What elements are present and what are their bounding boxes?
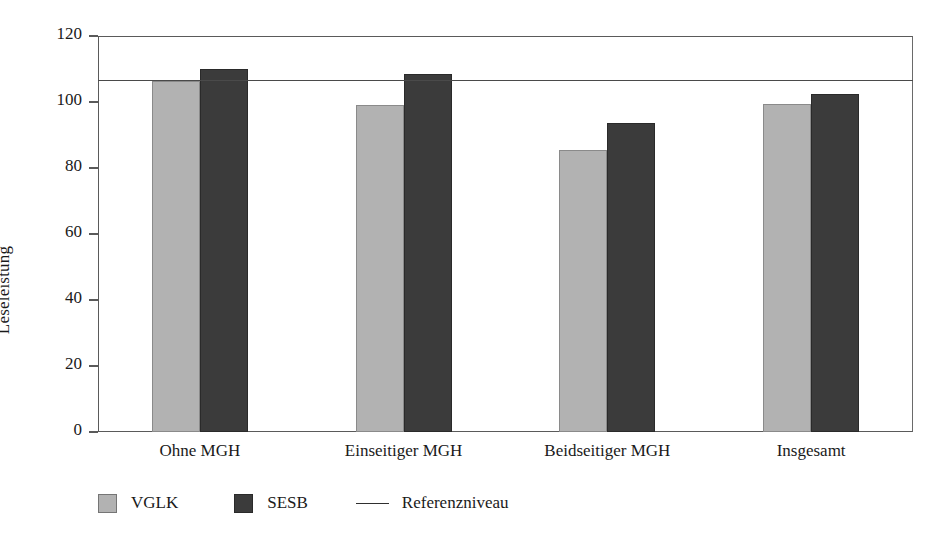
x-axis-label: Ohne MGH (98, 441, 302, 461)
y-axis-tick-label: 100 (57, 90, 83, 110)
bars-layer (98, 36, 913, 432)
y-axis-tick-mark (89, 233, 98, 234)
y-axis-tick-mark (89, 167, 98, 168)
y-axis-tick-label: 120 (57, 24, 83, 44)
legend-item-vglk: VGLK (98, 493, 178, 513)
y-axis-tick-mark (89, 365, 98, 366)
y-axis-title: Leseleistung (0, 180, 14, 400)
x-axis-label: Beidseitiger MGH (506, 441, 710, 461)
x-axis-label: Einseitiger MGH (302, 441, 506, 461)
y-axis-tick-label: 40 (65, 288, 82, 308)
bar-sesb (404, 74, 452, 432)
legend-swatch-vglk-icon (98, 494, 117, 513)
y-axis-tick-label: 80 (65, 156, 82, 176)
chart-legend: VGLK SESB Referenzniveau (98, 490, 509, 516)
legend-item-referenzniveau: Referenzniveau (356, 493, 509, 513)
y-axis-tick-label: 60 (65, 222, 82, 242)
bar-vglk (152, 81, 200, 432)
bar-vglk (356, 105, 404, 432)
y-axis-tick-mark (89, 431, 98, 432)
legend-line-icon (356, 503, 389, 504)
bar-vglk (763, 104, 811, 432)
bar-sesb (200, 69, 248, 432)
reference-line (98, 80, 913, 82)
legend-item-sesb: SESB (234, 493, 308, 513)
legend-swatch-sesb-icon (234, 494, 253, 513)
y-axis-tick-mark (89, 299, 98, 300)
legend-label-sesb: SESB (267, 493, 308, 513)
bar-sesb (607, 123, 655, 432)
legend-label-referenzniveau: Referenzniveau (402, 493, 509, 513)
y-axis-tick-mark (89, 101, 98, 102)
bar-chart: Leseleistung 020406080100120 Ohne MGHEin… (0, 0, 938, 542)
y-axis-tick-label: 0 (74, 420, 83, 440)
bar-vglk (559, 150, 607, 432)
x-axis-label: Insgesamt (709, 441, 913, 461)
y-axis-tick-mark (89, 35, 98, 36)
y-axis-tick-label: 20 (65, 354, 82, 374)
legend-label-vglk: VGLK (131, 493, 178, 513)
bar-sesb (811, 94, 859, 432)
